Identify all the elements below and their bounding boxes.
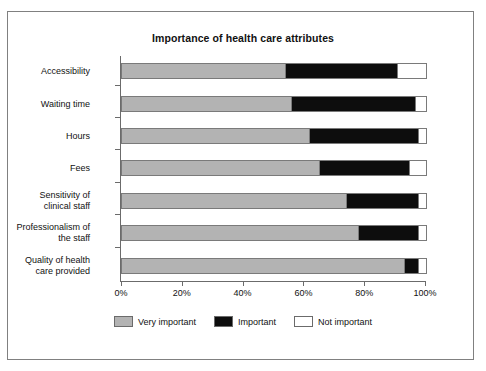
bar-segment-very-important <box>122 161 320 175</box>
legend-label: Important <box>238 317 276 327</box>
legend-swatch-icon <box>214 316 233 327</box>
y-axis-tick <box>115 214 121 215</box>
x-axis-tick-label: 80% <box>355 288 373 298</box>
category-label: Waiting time <box>41 99 90 110</box>
x-axis-tick <box>182 282 183 286</box>
bar-segment-very-important <box>122 64 286 78</box>
category-label: Accessibility <box>41 66 90 77</box>
x-axis-tick <box>121 282 122 286</box>
y-axis-tick <box>115 85 121 86</box>
bar-segment-important <box>346 194 419 208</box>
stacked-bar <box>121 258 427 274</box>
legend-item[interactable]: Very important <box>114 316 196 327</box>
legend-swatch-icon <box>294 316 313 327</box>
bar-segment-not-important <box>415 97 424 111</box>
bar-segment-very-important <box>122 259 405 273</box>
category-label: Sensitivity of clinical staff <box>39 190 90 212</box>
legend-item[interactable]: Not important <box>294 316 372 327</box>
legend-label: Very important <box>138 317 196 327</box>
bar-segment-important <box>291 97 416 111</box>
x-axis-line <box>120 281 426 282</box>
stacked-bar <box>121 63 427 79</box>
x-axis-tick-label: 40% <box>234 288 252 298</box>
y-axis-tick <box>115 149 121 150</box>
category-label: Hours <box>66 131 90 142</box>
bar-segment-not-important <box>397 64 424 78</box>
bar-segment-not-important <box>418 259 424 273</box>
stacked-bar <box>121 193 427 209</box>
y-axis-tick <box>115 182 121 183</box>
bar-segment-not-important <box>418 129 424 143</box>
bar-segment-not-important <box>418 194 424 208</box>
bar-segment-important <box>319 161 410 175</box>
stacked-bar <box>121 225 427 241</box>
bar-segment-important <box>309 129 418 143</box>
category-label: Professionalism of the staff <box>16 222 90 244</box>
y-axis-tick <box>115 247 121 248</box>
chart-figure: Importance of health care attributes 0%2… <box>0 0 486 371</box>
legend-item[interactable]: Important <box>214 316 276 327</box>
bar-segment-important <box>404 259 419 273</box>
bar-segment-very-important <box>122 226 359 240</box>
bar-segment-very-important <box>122 194 347 208</box>
y-axis-tick <box>115 117 121 118</box>
bar-segment-important <box>358 226 419 240</box>
category-label: Quality of health care provided <box>25 255 90 277</box>
x-axis-tick <box>364 282 365 286</box>
chart-legend: Very importantImportantNot important <box>0 316 486 327</box>
bar-segment-very-important <box>122 129 310 143</box>
bar-segment-important <box>285 64 397 78</box>
x-axis-tick-label: 20% <box>173 288 191 298</box>
legend-swatch-icon <box>114 316 133 327</box>
x-axis-tick-label: 100% <box>413 288 436 298</box>
x-axis-tick <box>303 282 304 286</box>
bar-segment-not-important <box>418 226 424 240</box>
category-label: Fees <box>70 163 90 174</box>
x-axis-tick-label: 0% <box>114 288 127 298</box>
x-axis-tick-label: 60% <box>294 288 312 298</box>
x-axis-tick <box>425 282 426 286</box>
legend-label: Not important <box>318 317 372 327</box>
bar-segment-not-important <box>409 161 424 175</box>
stacked-bar <box>121 128 427 144</box>
x-axis-tick <box>243 282 244 286</box>
chart-title: Importance of health care attributes <box>0 32 486 44</box>
bar-segment-very-important <box>122 97 292 111</box>
stacked-bar <box>121 160 427 176</box>
stacked-bar <box>121 96 427 112</box>
